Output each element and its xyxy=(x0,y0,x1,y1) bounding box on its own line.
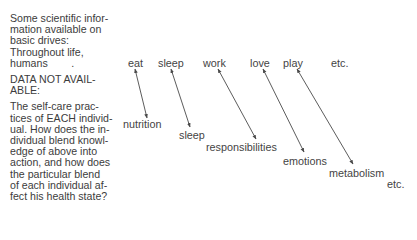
need-label: metabolism xyxy=(329,167,384,179)
need-label: emotions xyxy=(283,155,327,167)
double-arrow-icon xyxy=(135,69,147,118)
drive-label: eat xyxy=(128,57,143,69)
drive-label: play xyxy=(283,57,303,69)
double-arrow-icon xyxy=(297,69,353,164)
drive-label: love xyxy=(250,57,270,69)
drive-label: etc. xyxy=(331,57,348,69)
double-arrow-icon xyxy=(218,69,256,139)
drive-label: sleep xyxy=(158,57,184,69)
drive-label: work xyxy=(203,57,226,69)
need-label: etc. xyxy=(387,178,404,190)
double-arrow-icon xyxy=(263,69,304,152)
need-label: responsibilities xyxy=(206,141,277,153)
double-arrow-icon xyxy=(171,69,190,127)
need-label: sleep xyxy=(179,129,205,141)
need-label: nutrition xyxy=(123,118,161,130)
